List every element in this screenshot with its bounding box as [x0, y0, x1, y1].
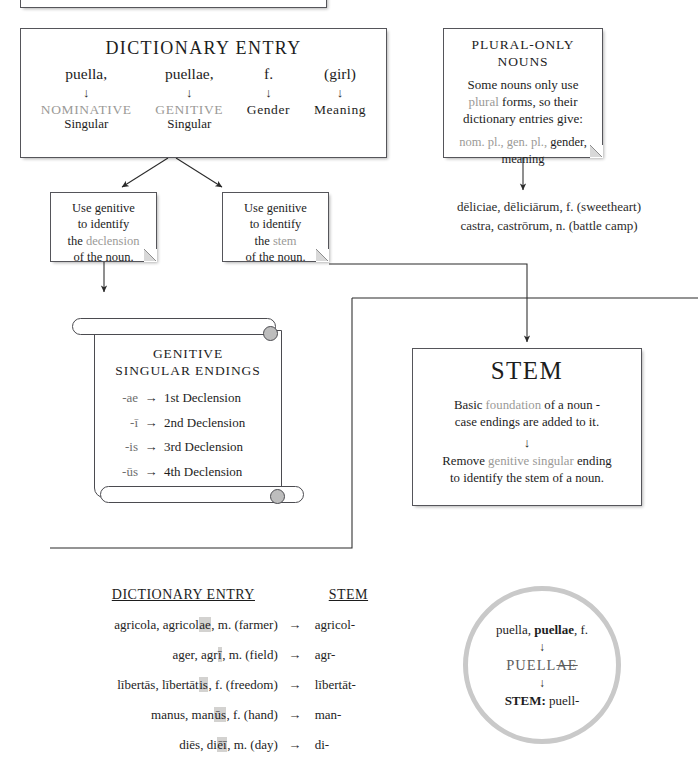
table-row: agricola, agricolae, m. (farmer) → agric… — [88, 616, 378, 646]
stem-body-pre: Basic — [454, 398, 486, 412]
ending-row: -ī → 2nd Declension — [94, 415, 282, 431]
plural-example-1: dēliciae, dēliciārum, f. (sweetheart) — [404, 198, 694, 217]
circle-stem-result: STEM: puell- — [505, 693, 580, 709]
table-row: manus, manūs, f. (hand) → man- — [88, 706, 378, 736]
entry-column-genitive: puellae, ↓ GENITIVE Singular — [155, 66, 223, 131]
stem-body: Basic foundation of a noun - case ending… — [413, 397, 641, 432]
ending-value: -is — [94, 439, 138, 455]
plural-body-line3: dictionary entries give: — [450, 111, 596, 128]
ending-value: -ūs — [94, 464, 138, 480]
entry-ending-highlight: ēī — [217, 737, 227, 752]
table-cell-entry: ager, agrī, m. (field) — [88, 646, 279, 676]
table-cell-stem: lībertāt- — [311, 676, 378, 706]
note-stem-keyword: stem — [273, 234, 297, 248]
circle-stem-part: PUELL — [506, 657, 556, 673]
table-row: diēs, diēī, m. (day) → di- — [88, 736, 378, 757]
table-cell-entry: manus, manūs, f. (hand) — [88, 706, 279, 736]
right-arrow-icon: → — [279, 736, 311, 757]
ending-declension: 2nd Declension — [164, 415, 245, 431]
entry-case-nominative: NOMINATIVE — [41, 103, 132, 117]
entry-word-gender: f. — [247, 66, 290, 82]
stem-summary-circle: puella, puellae, f. ↓ PUELLAE ↓ STEM: pu… — [463, 586, 621, 744]
right-arrow-icon: → — [279, 616, 311, 646]
note-stem-line3: the stem — [223, 233, 328, 249]
entry-word-genitive: puellae, — [155, 66, 223, 82]
plural-body-line1: Some nouns only use — [450, 77, 596, 94]
entry-ending-highlight: ae — [199, 617, 212, 632]
entry-pre: manus, man — [151, 707, 214, 722]
down-arrow-icon: ↓ — [539, 676, 545, 691]
folded-corner-icon — [144, 249, 157, 262]
right-arrow-icon: → — [279, 676, 311, 706]
stem-definition-box: STEM Basic foundation of a noun - case e… — [412, 348, 642, 506]
table-cell-stem: man- — [311, 706, 378, 736]
circle-genitive-form: PUELLAE — [506, 657, 577, 674]
stem-body-line2: case endings are added to it. — [413, 414, 641, 431]
scroll-roll-top — [72, 318, 276, 335]
ending-row: -is → 3rd Declension — [94, 439, 282, 455]
entry-case-genitive: GENITIVE — [155, 103, 223, 117]
entry-word-nominative: puella, — [41, 66, 132, 82]
circle-entry-nominative: puella, — [496, 622, 534, 637]
stem-body-line1: Basic foundation of a noun - — [413, 397, 641, 414]
right-arrow-icon: → — [279, 706, 311, 736]
entry-post: , f. (hand) — [226, 707, 277, 722]
entry-pre: diēs, di — [179, 737, 217, 752]
table-header-stem: STEM — [311, 586, 378, 616]
plural-only-nouns-box: PLURAL-ONLY NOUNS Some nouns only use pl… — [443, 28, 603, 158]
stem-body-keyword: foundation — [486, 398, 541, 412]
note-declension-keyword: declension — [86, 234, 139, 248]
genitive-endings-scroll: GENITIVE SINGULAR ENDINGS -ae → 1st Decl… — [72, 318, 304, 508]
stem-title: STEM — [413, 357, 641, 385]
table-cell-stem: agricol- — [311, 616, 378, 646]
ending-declension: 3rd Declension — [164, 439, 243, 455]
dictionary-entry-title: DICTIONARY ENTRY — [21, 38, 386, 59]
dictionary-entry-columns: puella, ↓ NOMINATIVE Singular puellae, ↓… — [21, 66, 386, 131]
plural-only-gives: nom. pl., gen. pl., gender, meaning — [450, 134, 596, 167]
scroll-title: GENITIVE SINGULAR ENDINGS — [94, 346, 282, 380]
ending-declension: 1st Declension — [164, 390, 241, 406]
plural-body-line2: plural forms, so their — [450, 94, 596, 111]
entry-post: , m. (farmer) — [211, 617, 277, 632]
ending-value: -ae — [94, 390, 138, 406]
entry-pre: ager, agr — [173, 647, 218, 662]
entry-ending-highlight: ūs — [214, 707, 227, 722]
note-stem-line2: to identify — [223, 216, 328, 232]
note-stem-line1: Use genitive — [223, 200, 328, 216]
plural-keyword: plural — [468, 94, 498, 109]
stem-remove-keyword: genitive singular — [488, 454, 574, 468]
plural-gives-plain: gender, — [550, 135, 587, 149]
entry-pre: agricola, agricol — [114, 617, 198, 632]
entry-pre: lībertās, lībertāt — [117, 677, 199, 692]
table-cell-entry: diēs, diēī, m. (day) — [88, 736, 279, 757]
stem-note-to-stem-box — [329, 264, 527, 342]
circle-entry-genitive: puellae — [534, 622, 574, 637]
entry-post: , m. (day) — [227, 737, 278, 752]
down-arrow-icon: ↓ — [247, 86, 290, 100]
plural-body-rest: forms, so their — [502, 94, 577, 109]
plural-gives-line1: nom. pl., gen. pl., gender, — [450, 134, 596, 150]
circle-stem-value: puell- — [549, 693, 579, 708]
ending-declension: 4th Declension — [164, 464, 242, 480]
note-box-stem: Use genitive to identify the stem of the… — [222, 192, 329, 262]
table-cell-entry: agricola, agricolae, m. (farmer) — [88, 616, 279, 646]
note-declension-line4: of the noun. — [51, 249, 156, 265]
stem-remove-post: ending — [574, 454, 612, 468]
right-arrow-icon: → — [138, 464, 164, 480]
circle-removed-ending: AE — [556, 657, 577, 673]
stem-remove: Remove genitive singular ending to ident… — [413, 453, 641, 488]
examples-table: DICTIONARY ENTRY STEM agricola, agricola… — [88, 586, 378, 757]
dictionary-entry-box: DICTIONARY ENTRY puella, ↓ NOMINATIVE Si… — [20, 28, 387, 158]
table-cell-entry: lībertās, lībertātis, f. (freedom) — [88, 676, 279, 706]
note-declension-line1: Use genitive — [51, 200, 156, 216]
entry-post: , f. (freedom) — [208, 677, 277, 692]
entry-column-nominative: puella, ↓ NOMINATIVE Singular — [41, 66, 132, 131]
down-arrow-icon: ↓ — [413, 435, 641, 451]
down-arrow-icon: ↓ — [539, 640, 545, 655]
ending-row: -ūs → 4th Declension — [94, 464, 282, 480]
clipped-top-box — [20, 0, 327, 8]
note-declension-line2: to identify — [51, 216, 156, 232]
note-declension-line3: the declension — [51, 233, 156, 249]
plural-title-line1: PLURAL-ONLY — [450, 37, 596, 54]
stem-remove-line1: Remove genitive singular ending — [413, 453, 641, 470]
